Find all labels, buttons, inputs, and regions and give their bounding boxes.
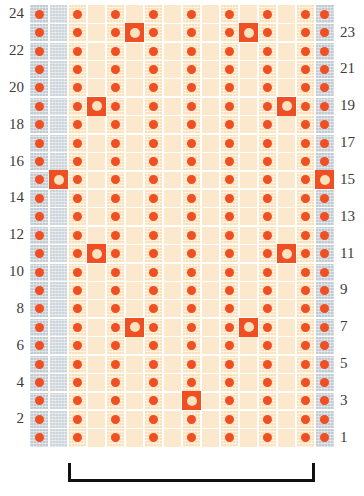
- chart-cell[interactable]: [87, 42, 106, 60]
- chart-cell[interactable]: [277, 42, 296, 60]
- chart-cell[interactable]: [163, 5, 182, 23]
- chart-cell[interactable]: [201, 152, 220, 170]
- chart-cell[interactable]: [277, 281, 296, 299]
- chart-cell[interactable]: [49, 79, 68, 97]
- chart-cell[interactable]: [87, 226, 106, 244]
- chart-cell[interactable]: [125, 189, 144, 207]
- chart-cell[interactable]: [239, 244, 258, 262]
- chart-cell[interactable]: [125, 337, 144, 355]
- chart-cell[interactable]: [201, 429, 220, 447]
- chart-cell[interactable]: [49, 392, 68, 410]
- chart-cell[interactable]: [201, 337, 220, 355]
- chart-cell[interactable]: [163, 116, 182, 134]
- chart-cell[interactable]: [163, 263, 182, 281]
- chart-cell[interactable]: [239, 208, 258, 226]
- chart-cell[interactable]: [87, 189, 106, 207]
- chart-cell[interactable]: [49, 23, 68, 41]
- chart-cell[interactable]: [163, 208, 182, 226]
- chart-cell[interactable]: [277, 5, 296, 23]
- chart-cell[interactable]: [239, 410, 258, 428]
- chart-cell[interactable]: [239, 5, 258, 23]
- chart-cell[interactable]: [87, 337, 106, 355]
- chart-cell[interactable]: [49, 373, 68, 391]
- chart-cell[interactable]: [239, 116, 258, 134]
- chart-cell[interactable]: [49, 429, 68, 447]
- chart-cell[interactable]: [201, 281, 220, 299]
- chart-cell[interactable]: [49, 189, 68, 207]
- chart-cell[interactable]: [277, 134, 296, 152]
- chart-cell[interactable]: [87, 208, 106, 226]
- chart-cell[interactable]: [125, 355, 144, 373]
- chart-cell[interactable]: [49, 97, 68, 115]
- chart-cell[interactable]: [201, 300, 220, 318]
- chart-cell[interactable]: [125, 79, 144, 97]
- chart-cell[interactable]: [239, 152, 258, 170]
- chart-cell[interactable]: [49, 410, 68, 428]
- chart-cell[interactable]: [163, 60, 182, 78]
- chart-cell[interactable]: [49, 355, 68, 373]
- chart-cell[interactable]: [87, 300, 106, 318]
- chart-cell[interactable]: [239, 171, 258, 189]
- chart-cell[interactable]: [49, 116, 68, 134]
- chart-cell[interactable]: [125, 42, 144, 60]
- chart-cell[interactable]: [49, 208, 68, 226]
- chart-cell[interactable]: [239, 189, 258, 207]
- chart-cell[interactable]: [163, 79, 182, 97]
- chart-cell[interactable]: [239, 42, 258, 60]
- chart-cell[interactable]: [49, 5, 68, 23]
- chart-cell[interactable]: [87, 5, 106, 23]
- chart-cell[interactable]: [49, 152, 68, 170]
- chart-cell[interactable]: [163, 337, 182, 355]
- chart-cell[interactable]: [239, 134, 258, 152]
- chart-cell[interactable]: [239, 60, 258, 78]
- chart-cell[interactable]: [49, 134, 68, 152]
- chart-cell[interactable]: [87, 281, 106, 299]
- chart-cell[interactable]: [125, 244, 144, 262]
- chart-cell[interactable]: [125, 263, 144, 281]
- chart-cell[interactable]: [163, 392, 182, 410]
- chart-cell[interactable]: [277, 410, 296, 428]
- chart-cell[interactable]: [87, 152, 106, 170]
- chart-cell[interactable]: [277, 429, 296, 447]
- chart-cell[interactable]: [163, 226, 182, 244]
- chart-cell[interactable]: [87, 410, 106, 428]
- chart-cell[interactable]: [239, 429, 258, 447]
- chart-cell[interactable]: [87, 318, 106, 336]
- chart-cell[interactable]: [163, 134, 182, 152]
- chart-cell[interactable]: [277, 116, 296, 134]
- chart-cell[interactable]: [125, 410, 144, 428]
- chart-cell[interactable]: [125, 60, 144, 78]
- chart-cell[interactable]: [239, 281, 258, 299]
- chart-cell[interactable]: [125, 116, 144, 134]
- chart-cell[interactable]: [201, 392, 220, 410]
- chart-grid[interactable]: [30, 5, 334, 447]
- chart-cell[interactable]: [201, 97, 220, 115]
- chart-cell[interactable]: [201, 410, 220, 428]
- chart-cell[interactable]: [201, 189, 220, 207]
- chart-cell[interactable]: [163, 300, 182, 318]
- chart-cell[interactable]: [201, 116, 220, 134]
- chart-cell[interactable]: [125, 208, 144, 226]
- chart-cell[interactable]: [49, 42, 68, 60]
- chart-cell[interactable]: [277, 373, 296, 391]
- chart-cell[interactable]: [87, 263, 106, 281]
- chart-cell[interactable]: [201, 208, 220, 226]
- chart-cell[interactable]: [277, 60, 296, 78]
- chart-cell[interactable]: [49, 337, 68, 355]
- chart-cell[interactable]: [277, 152, 296, 170]
- chart-cell[interactable]: [239, 79, 258, 97]
- chart-cell[interactable]: [87, 116, 106, 134]
- chart-cell[interactable]: [201, 355, 220, 373]
- chart-cell[interactable]: [87, 355, 106, 373]
- chart-cell[interactable]: [201, 318, 220, 336]
- chart-cell[interactable]: [87, 23, 106, 41]
- chart-cell[interactable]: [87, 60, 106, 78]
- chart-cell[interactable]: [239, 392, 258, 410]
- chart-cell[interactable]: [49, 226, 68, 244]
- chart-cell[interactable]: [201, 134, 220, 152]
- chart-cell[interactable]: [277, 337, 296, 355]
- chart-cell[interactable]: [125, 226, 144, 244]
- chart-cell[interactable]: [201, 23, 220, 41]
- chart-cell[interactable]: [163, 97, 182, 115]
- chart-cell[interactable]: [87, 373, 106, 391]
